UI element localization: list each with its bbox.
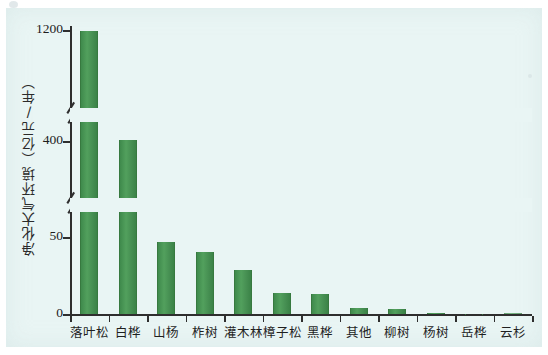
axis-break-gap [70,198,532,212]
bar [311,294,329,314]
x-axis-tick [186,316,188,322]
bar [273,293,291,315]
x-axis-labels: 落叶松白桦山杨柞树灌木林樟子松黑桦其他柳树杨树岳桦云杉 [70,322,532,350]
y-axis-tick-label: 50 [17,228,63,244]
x-axis-tick [224,316,226,322]
bar [196,252,214,314]
x-axis-tick [109,316,111,322]
axis-break-gap [70,108,532,122]
x-axis-tick [301,316,303,322]
x-axis-tick-label: 柞树 [186,322,225,341]
x-axis-tick-label: 杨树 [417,322,456,341]
x-axis-tick-label: 岳桦 [455,322,494,341]
bar-series [70,26,532,314]
x-axis-tick [340,316,342,322]
x-axis-tick-label: 灌木林 [224,322,263,341]
x-axis-tick [494,316,496,322]
x-axis-tick-label: 云杉 [494,322,533,341]
x-axis-tick [417,316,419,322]
x-axis-tick-label: 其他 [340,322,379,341]
x-axis-tick [378,316,380,322]
x-axis-tick-label: 柳树 [378,322,417,341]
x-axis-tick [455,316,457,322]
bar [234,270,252,315]
bar [388,309,406,314]
figure-container: 净化大气环境（亿元/年） 0504001200 落叶松白桦山杨柞树灌木林樟子松黑… [0,0,548,355]
x-axis-tick-label: 黑桦 [301,322,340,341]
bar [119,140,137,315]
x-axis-tick-label: 樟子松 [263,322,302,341]
y-axis-tick-label: 0 [17,305,63,321]
x-axis-tick [147,316,149,322]
y-axis-tick-label: 1200 [17,21,63,37]
bar [427,313,445,315]
bar [80,31,98,315]
bar [157,242,175,315]
x-axis-tick [263,316,265,322]
x-axis-tick-label: 白桦 [109,322,148,341]
x-axis-tick-label: 山杨 [147,322,186,341]
bar [350,308,368,314]
y-axis-labels: 0504001200 [8,0,63,355]
x-axis-tick [70,316,72,322]
bar [504,313,522,314]
x-axis-tick-label: 落叶松 [70,322,109,341]
y-axis-tick-label: 400 [17,132,63,148]
bar [465,314,483,315]
x-axis-tick [532,316,534,322]
